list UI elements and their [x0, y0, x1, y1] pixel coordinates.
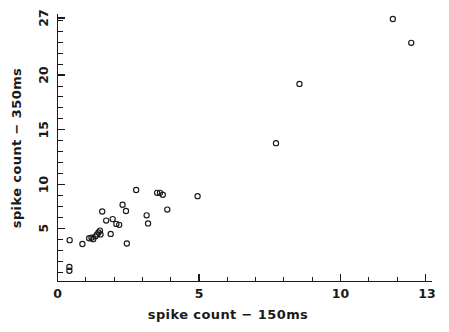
data-point-series: [67, 16, 414, 273]
data-point: [409, 40, 414, 45]
data-point: [100, 209, 105, 214]
y-tick-label-5: 5: [36, 224, 51, 233]
data-point: [67, 238, 72, 243]
data-point: [110, 217, 115, 222]
data-point: [104, 218, 109, 223]
y-axis-minor-ticks: [58, 20, 63, 272]
data-point: [144, 213, 149, 218]
data-point: [273, 141, 278, 146]
data-point: [120, 202, 125, 207]
y-axis-tick-labels: 5 10 15 20 27: [36, 9, 51, 232]
x-tick-label-0: 0: [53, 286, 62, 301]
y-tick-label-27: 27: [36, 9, 51, 26]
data-point: [390, 16, 395, 21]
scatter-plot-figure: 0 5 10 13: [0, 0, 449, 332]
x-tick-label-1: 5: [195, 286, 204, 301]
x-axis-tick-labels: 0 5 10 13: [53, 286, 436, 301]
x-tick-label-3: 13: [418, 286, 435, 301]
data-point: [195, 194, 200, 199]
data-point: [124, 241, 129, 246]
data-point: [145, 221, 150, 226]
data-point: [297, 81, 302, 86]
x-axis-minor-ticks: [86, 277, 397, 282]
data-point: [108, 231, 113, 236]
data-point: [67, 264, 72, 269]
y-tick-label-10: 10: [36, 176, 51, 194]
y-tick-label-15: 15: [36, 121, 51, 138]
data-point: [80, 241, 85, 246]
x-axis-title: spike count − 150ms: [148, 307, 308, 322]
x-tick-label-2: 10: [332, 286, 350, 301]
y-axis-title: spike count − 350ms: [9, 68, 24, 228]
data-point: [134, 187, 139, 192]
axis-lines: [58, 14, 433, 282]
chart-canvas: 0 5 10 13: [0, 0, 449, 332]
data-point: [123, 208, 128, 213]
y-tick-label-20: 20: [36, 66, 51, 84]
data-point: [165, 207, 170, 212]
x-axis-major-ticks: [58, 274, 426, 282]
y-axis-major-ticks: [58, 18, 66, 228]
